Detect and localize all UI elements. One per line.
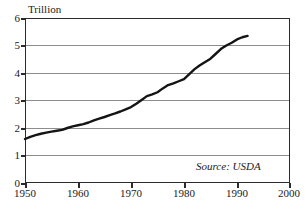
gridline-1: [26, 155, 289, 156]
chart-figure: Trillion 6 5 4 3 2 1 0 1950 1960 1970 19…: [0, 0, 306, 213]
plot-area: [25, 18, 290, 183]
x-tick-label-1960: 1960: [58, 188, 98, 199]
y-tick-label-4: 4: [0, 68, 20, 78]
y-tick-label-2: 2: [0, 123, 20, 133]
source-annotation: Source: USDA: [196, 160, 261, 172]
y-tick-label-3: 3: [0, 95, 20, 105]
y-axis-title: Trillion: [28, 3, 61, 15]
x-tick-label-2000: 2000: [269, 188, 306, 199]
gridline-5: [26, 45, 289, 46]
y-tick-label-6: 6: [0, 13, 20, 23]
x-tick-label-1980: 1980: [164, 188, 204, 199]
y-tick-label-1: 1: [0, 150, 20, 160]
gridline-2: [26, 128, 289, 129]
x-tick-label-1950: 1950: [5, 188, 45, 199]
y-tick-label-5: 5: [0, 40, 20, 50]
gridline-3: [26, 100, 289, 101]
gridline-4: [26, 73, 289, 74]
x-tick-label-1970: 1970: [111, 188, 151, 199]
x-tick-label-1990: 1990: [217, 188, 257, 199]
